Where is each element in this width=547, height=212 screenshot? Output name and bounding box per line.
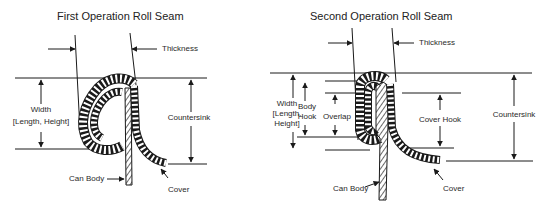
width-label: Width: [277, 99, 297, 109]
cover-pointer: [434, 169, 443, 180]
can-body-label: Can Body: [69, 174, 104, 184]
overlap-label: Overlap: [323, 112, 351, 122]
body-hook-label-2: Hook: [298, 112, 317, 122]
cover-label: Cover: [443, 184, 464, 194]
thickness-label: Thickness: [419, 38, 455, 48]
thickness-label: Thickness: [162, 44, 198, 54]
cover-pointer: [161, 169, 168, 178]
countersink-label: Countersink: [168, 113, 211, 123]
first-operation-title: First Operation Roll Seam: [57, 10, 184, 22]
width-sublabel-2: Height]: [274, 119, 299, 129]
body-hook-label-1: Body: [298, 102, 316, 112]
cover-hook-label: Cover Hook: [419, 115, 461, 125]
cover-label: Cover: [168, 185, 189, 195]
width-label: Width: [31, 105, 51, 115]
countersink-label: Countersink: [493, 110, 536, 120]
second-operation-title: Second Operation Roll Seam: [310, 10, 452, 22]
width-sublabel: [Length, Height]: [13, 117, 69, 127]
thickness-line-right: [392, 28, 396, 82]
can-body-label: Can Body: [333, 184, 368, 194]
seam-diagrams: First Operation Roll Seam Thickness Widt…: [0, 0, 547, 212]
